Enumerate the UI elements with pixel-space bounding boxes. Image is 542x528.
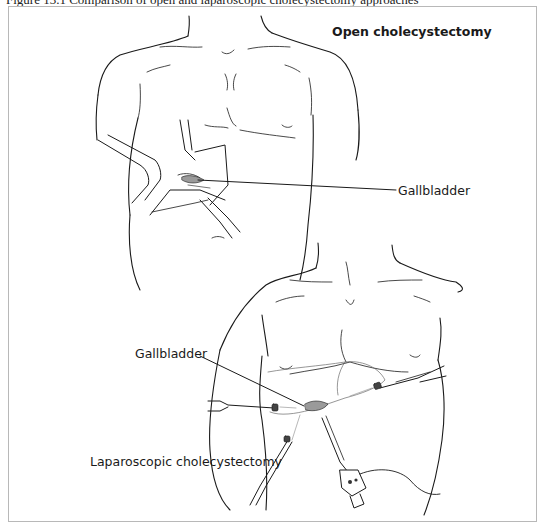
open-cholecystectomy-title: Open cholecystectomy (332, 24, 492, 39)
laparoscopic-cholecystectomy-title: Laparoscopic cholecystectomy (90, 454, 282, 469)
open-torso-illustration (96, 16, 396, 290)
gallbladder-label-laparoscopic: Gallbladder (135, 346, 207, 361)
laparoscopic-torso-illustration (200, 243, 462, 515)
illustration (0, 0, 542, 528)
gallbladder-label-open: Gallbladder (398, 183, 470, 198)
